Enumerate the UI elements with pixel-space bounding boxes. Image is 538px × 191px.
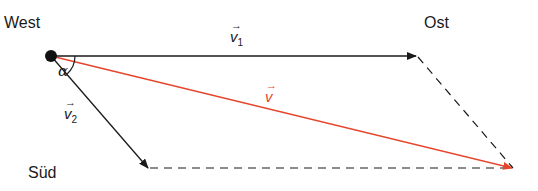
label-v2: →v2 bbox=[64, 105, 77, 125]
vector-v-resultant bbox=[51, 56, 512, 168]
angle-arc bbox=[67, 56, 75, 74]
dashed-right bbox=[418, 57, 513, 168]
origin-dot bbox=[45, 50, 57, 62]
label-south: Süd bbox=[28, 164, 56, 182]
label-v: →v bbox=[265, 88, 273, 105]
label-v1: →v1 bbox=[230, 28, 243, 48]
label-east: Ost bbox=[424, 14, 449, 32]
label-alpha: α bbox=[58, 62, 68, 80]
label-west: West bbox=[4, 14, 40, 32]
